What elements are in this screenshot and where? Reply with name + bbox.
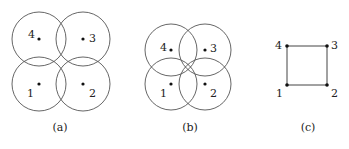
node-label-4: 4 [28,28,35,41]
node-2 [203,82,206,85]
node-3 [203,48,206,51]
node-label-1: 1 [27,87,34,100]
vertex-label-3: 3 [331,39,338,52]
vertex-3 [325,44,329,48]
caption-b: (b) [182,121,198,134]
panel-c: 1 2 3 4 (c) [275,39,338,134]
node-label-2: 2 [89,87,96,100]
vertex-1 [285,83,289,87]
vertex-4 [285,44,289,48]
node-3 [81,37,84,40]
node-4 [37,37,40,40]
node-1 [169,82,172,85]
node-label-4: 4 [160,41,167,54]
node-1 [37,82,40,85]
node-label-1: 1 [160,87,167,100]
vertex-label-2: 2 [331,87,338,100]
panel-a: 1 2 3 4 (a) [12,12,110,134]
node-2 [81,82,84,85]
cycle-edges [287,46,327,85]
figure-canvas: 1 2 3 4 (a) 1 2 3 4 (b) 1 2 3 4 (c) [0,0,349,149]
node-4 [169,48,172,51]
caption-c: (c) [301,121,316,134]
vertex-label-4: 4 [275,39,282,52]
vertex-2 [325,83,329,87]
node-label-2: 2 [210,87,217,100]
caption-a: (a) [52,121,67,134]
node-label-3: 3 [89,32,96,45]
vertex-label-1: 1 [276,87,283,100]
panel-b: 1 2 3 4 (b) [145,24,231,134]
node-label-3: 3 [210,42,217,55]
